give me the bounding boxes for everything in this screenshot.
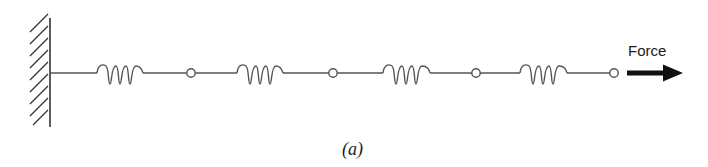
figure-caption: (a): [342, 139, 363, 160]
fixed-wall: [30, 14, 50, 127]
spring-1: [97, 65, 143, 84]
wall-hatching: [30, 14, 48, 125]
force-arrow-icon: [627, 65, 683, 82]
node-1: [187, 69, 195, 77]
spring-3: [383, 65, 430, 84]
spring-2: [237, 65, 283, 84]
node-2: [329, 69, 337, 77]
node-4: [610, 69, 618, 77]
force-label: Force: [628, 42, 666, 59]
spring-4: [520, 65, 567, 84]
spring-series-diagram: Force (a): [0, 0, 708, 167]
node-3: [472, 69, 480, 77]
